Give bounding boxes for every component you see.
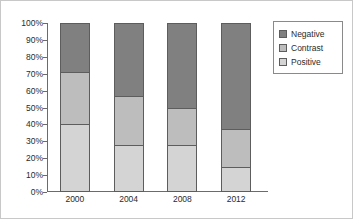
stacked-bar (60, 23, 90, 192)
bar-segment-negative (60, 23, 90, 72)
bar-segment-negative (167, 23, 197, 108)
stacked-bar (114, 23, 144, 192)
bar-segment-negative (114, 23, 144, 96)
x-axis-labels: 2000200420082012 (48, 194, 263, 210)
y-axis-tick-label: 30% (3, 137, 43, 146)
legend-swatch-icon (279, 58, 287, 66)
plot-area (48, 23, 263, 192)
bar-segment-positive (167, 145, 197, 192)
x-axis-tick-label: 2012 (209, 194, 263, 205)
y-axis-tick-label: 90% (3, 35, 43, 44)
legend-swatch-icon (279, 44, 287, 52)
bar-group (221, 23, 251, 192)
y-axis-tick-label: 100% (3, 19, 43, 28)
bar-segment-contrast (221, 129, 251, 166)
x-axis-tick-label: 2000 (48, 194, 102, 205)
bar-group (60, 23, 90, 192)
bar-segment-negative (221, 23, 251, 129)
chart-container: 0%10%20%30%40%50%60%70%80%90%100% 200020… (0, 0, 353, 219)
bar-segment-contrast (114, 96, 144, 145)
y-axis-tick-label: 40% (3, 120, 43, 129)
legend-label: Negative (291, 29, 325, 39)
y-axis-tick-label: 70% (3, 69, 43, 78)
y-axis-labels: 0%10%20%30%40%50%60%70%80%90%100% (1, 23, 43, 192)
stacked-bar (221, 23, 251, 192)
legend-swatch-icon (279, 30, 287, 38)
y-axis-tick-label: 0% (3, 188, 43, 197)
chart-legend: NegativeContrastPositive (273, 21, 343, 74)
y-axis-tick-label: 50% (3, 103, 43, 112)
x-axis-tick-label: 2008 (155, 194, 209, 205)
bar-segment-positive (114, 145, 144, 192)
bar-group (167, 23, 197, 192)
legend-item-positive[interactable]: Positive (279, 55, 338, 68)
legend-item-negative[interactable]: Negative (279, 27, 338, 40)
y-axis-tick-label: 80% (3, 52, 43, 61)
bar-group (114, 23, 144, 192)
legend-label: Positive (291, 57, 321, 67)
x-axis-tick-label: 2004 (102, 194, 156, 205)
y-axis-tick-label: 20% (3, 154, 43, 163)
bar-segment-contrast (167, 108, 197, 145)
stacked-bar (167, 23, 197, 192)
y-axis-tick-label: 60% (3, 86, 43, 95)
bar-segment-positive (60, 124, 90, 192)
bar-segment-positive (221, 167, 251, 192)
y-axis-tick-label: 10% (3, 171, 43, 180)
legend-item-contrast[interactable]: Contrast (279, 41, 338, 54)
bar-segment-contrast (60, 72, 90, 124)
legend-label: Contrast (291, 43, 323, 53)
y-axis-tick-mark (43, 192, 47, 193)
